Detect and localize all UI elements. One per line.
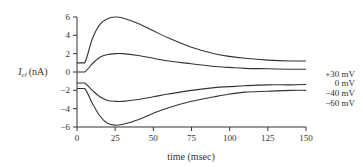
legend-item: −60 mV	[325, 98, 355, 108]
series-line	[77, 17, 306, 63]
y-tick-label: 6	[66, 12, 71, 22]
axes: −6−4−202460255075100125150	[60, 12, 313, 143]
curves	[77, 17, 306, 125]
legend-item: 0 mV	[335, 78, 356, 88]
series-line	[77, 53, 306, 72]
x-tick-label: 25	[111, 133, 121, 143]
series-line	[77, 89, 306, 126]
y-tick-label: −2	[60, 85, 70, 95]
y-tick-label: 4	[66, 30, 71, 40]
x-axis-label: time (msec)	[167, 151, 214, 163]
x-tick-label: 50	[149, 133, 159, 143]
y-tick-label: 0	[66, 67, 71, 77]
x-tick-label: 125	[261, 133, 275, 143]
x-tick-label: 150	[299, 133, 313, 143]
x-tick-label: 100	[223, 133, 237, 143]
legend: +30 mV0 mV−40 mV−60 mV	[325, 69, 355, 108]
x-tick-label: 75	[187, 133, 197, 143]
series-line	[77, 83, 306, 102]
y-tick-label: −4	[60, 104, 70, 114]
y-tick-label: −6	[60, 122, 70, 132]
chart: −6−4−202460255075100125150 +30 mV0 mV−40…	[0, 0, 364, 167]
y-tick-label: 2	[66, 49, 71, 59]
y-axis-label: Icl(nA)	[17, 66, 47, 79]
x-tick-label: 0	[75, 133, 80, 143]
legend-item: −40 mV	[325, 88, 355, 98]
